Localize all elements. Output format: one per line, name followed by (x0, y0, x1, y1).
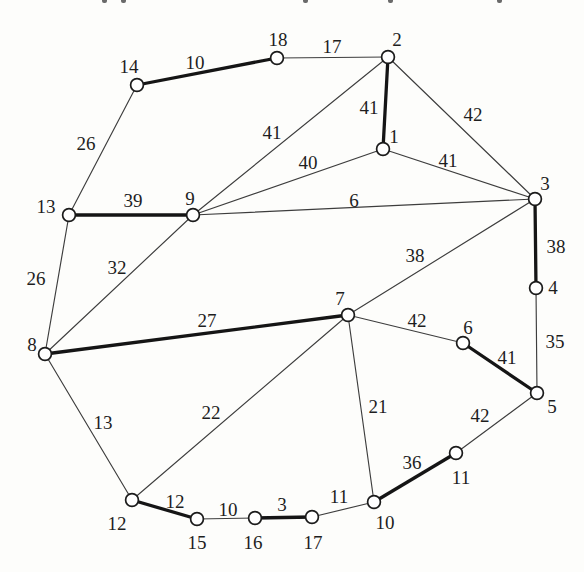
graph-node-6 (457, 337, 470, 350)
edge-18-2 (277, 57, 388, 58)
edge-16-17-matched (255, 517, 312, 518)
edge-7-12 (132, 315, 348, 500)
node-label-13: 13 (37, 196, 56, 217)
graph-node-14 (131, 79, 144, 92)
node-label-1: 1 (389, 126, 399, 147)
edge-12-15-matched (132, 500, 197, 519)
edge-8-9 (45, 215, 193, 354)
graph-node-8 (39, 348, 52, 361)
edge-2-1-matched (383, 57, 388, 149)
graph-node-12 (126, 494, 139, 507)
edge-weight-label-17-10: 11 (330, 486, 348, 507)
graph-node-2 (382, 51, 395, 64)
edge-weight-label-4-5: 35 (546, 331, 565, 352)
edge-8-7-matched (45, 315, 348, 354)
graph-node-5 (531, 387, 544, 400)
node-label-2: 2 (392, 29, 402, 50)
edge-weight-label-8-7: 27 (198, 310, 217, 331)
node-label-4: 4 (548, 277, 558, 298)
node-label-8: 8 (27, 334, 37, 355)
node-label-18: 18 (269, 29, 288, 50)
edge-8-12 (45, 354, 132, 500)
edge-weight-label-2-1: 41 (360, 97, 379, 118)
node-label-14: 14 (120, 56, 140, 77)
edge-5-11 (456, 393, 537, 453)
edge-weight-label-1-3: 41 (439, 150, 458, 171)
edge-3-4-matched (535, 199, 536, 288)
edge-weight-label-7-12: 22 (202, 402, 221, 423)
edge-weight-label-12-15: 12 (166, 491, 185, 512)
graph-node-18 (271, 52, 284, 65)
edge-9-2 (193, 57, 388, 215)
node-label-17: 17 (304, 532, 323, 553)
node-label-12: 12 (108, 513, 127, 534)
edge-weight-label-7-10: 21 (369, 396, 388, 417)
edge-weight-label-3-7: 38 (406, 245, 425, 266)
node-label-7: 7 (335, 288, 345, 309)
edge-1-3 (383, 149, 535, 199)
node-label-16: 16 (244, 532, 263, 553)
edge-weight-label-6-5: 41 (498, 347, 517, 368)
edge-weight-label-8-9: 32 (108, 257, 127, 278)
edge-weight-label-9-2: 41 (263, 122, 282, 143)
edge-2-3 (388, 57, 535, 199)
edge-weight-label-5-11: 42 (471, 405, 490, 426)
weighted-graph-figure: 1017414241404162639263238383527424142362… (0, 0, 584, 572)
node-label-10: 10 (376, 512, 395, 533)
edge-weight-label-11-10: 36 (403, 452, 422, 473)
graph-node-7 (342, 309, 355, 322)
edge-weight-label-9-1: 40 (299, 152, 318, 173)
edge-weight-label-13-8: 26 (27, 268, 46, 289)
edge-13-8 (45, 215, 69, 354)
graph-node-4 (530, 282, 543, 295)
graph-node-17 (306, 511, 319, 524)
edge-4-5 (536, 288, 537, 393)
edge-weight-label-16-17: 3 (277, 494, 287, 515)
edge-weight-label-8-12: 13 (94, 412, 113, 433)
graph-node-10 (368, 496, 381, 509)
edge-weight-label-15-16: 10 (219, 499, 238, 520)
edge-weight-label-9-3: 6 (349, 190, 359, 211)
edge-weight-label-18-2: 17 (323, 36, 342, 57)
graph-node-15 (191, 513, 204, 526)
node-label-15: 15 (188, 532, 207, 553)
graph-node-9 (187, 209, 200, 222)
edge-weight-label-13-14: 26 (77, 133, 96, 154)
node-label-9: 9 (185, 188, 195, 209)
edge-14-18-matched (137, 58, 277, 85)
edge-weight-label-3-4: 38 (547, 236, 566, 257)
node-label-3: 3 (540, 173, 550, 194)
graph-node-11 (450, 447, 463, 460)
edge-3-7 (348, 199, 535, 315)
edge-weight-label-13-9: 39 (124, 190, 143, 211)
edge-7-6 (348, 315, 463, 343)
node-label-5: 5 (547, 396, 557, 417)
edge-weight-label-2-3: 42 (464, 104, 483, 125)
node-label-6: 6 (463, 317, 473, 338)
node-label-11: 11 (452, 467, 470, 488)
graph-node-16 (249, 512, 262, 525)
book-figure-page: 1017414241404162639263238383527424142362… (0, 0, 584, 572)
graph-node-1 (377, 143, 390, 156)
graph-node-13 (63, 209, 76, 222)
edge-weight-label-7-6: 42 (408, 310, 427, 331)
edge-9-3 (193, 199, 535, 215)
edge-weight-label-14-18: 10 (186, 52, 205, 73)
graph-node-3 (529, 193, 542, 206)
